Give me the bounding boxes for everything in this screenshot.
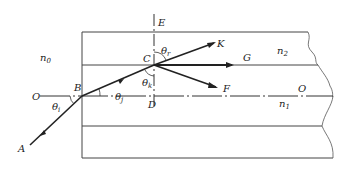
label-G: G	[243, 52, 251, 63]
label-O-left: O	[32, 91, 40, 102]
label-theta-j: θj	[115, 91, 124, 104]
angle-arc-theta-i	[70, 96, 74, 104]
label-F: F	[222, 83, 231, 94]
arrow-head-K	[207, 42, 216, 48]
label-theta-i: θi	[52, 101, 60, 114]
arrow-head-F	[208, 82, 218, 88]
label-E: E	[157, 17, 166, 28]
label-theta-k: θk	[142, 77, 152, 90]
label-n1: n1	[279, 98, 290, 111]
fiber-break-edge	[308, 32, 333, 158]
label-B: B	[73, 82, 81, 93]
label-C: C	[143, 53, 151, 64]
label-n0: n0	[40, 52, 51, 65]
label-A: A	[17, 143, 25, 154]
angle-arc-theta-k	[145, 70, 154, 76]
ray-CF	[154, 65, 216, 87]
label-K: K	[216, 38, 225, 49]
label-n2: n2	[277, 45, 288, 58]
angle-arc-theta-j	[99, 89, 100, 96]
label-O-right: O	[298, 83, 306, 94]
label-D: D	[147, 99, 156, 110]
label-theta-r: θr	[161, 45, 171, 58]
arrow-head-G	[226, 62, 234, 68]
diagram-svg: E C D B A O O K G F n0 n2 n1 θi θj θr θk	[0, 0, 353, 172]
fiber-refraction-diagram: E C D B A O O K G F n0 n2 n1 θi θj θr θk	[0, 0, 353, 172]
